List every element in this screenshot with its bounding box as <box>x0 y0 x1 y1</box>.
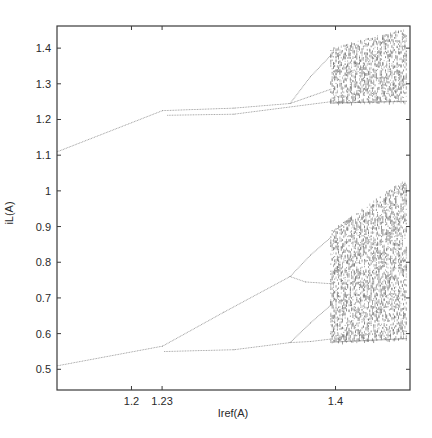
branch-lower-period4-c <box>290 305 332 343</box>
branch-lower-period2-low <box>164 342 290 352</box>
branch-lower-period4-a <box>290 237 332 277</box>
branch-lower-period4-d <box>290 339 332 343</box>
lower-chaos <box>330 182 406 345</box>
branch-upper-period4-b <box>290 89 332 104</box>
x-tick-label: 1.23 <box>151 395 172 407</box>
branch-lower-period1 <box>57 346 163 367</box>
branch-lower-period4-b <box>290 276 332 284</box>
y-tick-label: 1.1 <box>36 149 51 161</box>
branch-lower-period2-high <box>162 276 290 346</box>
y-tick-label: 0.7 <box>36 292 51 304</box>
branch-upper-period1 <box>57 110 163 152</box>
upper-chaos <box>330 29 406 105</box>
branch-upper-period2-high <box>162 103 290 111</box>
branch-upper-period2-low <box>167 101 331 115</box>
y-tick-label: 0.6 <box>36 328 51 340</box>
y-tick-label: 0.8 <box>36 256 51 268</box>
y-tick-label: 0.9 <box>36 221 51 233</box>
y-axis-label: iL(A) <box>3 201 15 224</box>
bifurcation-chart: 1.21.231.4 0.50.60.70.80.911.11.21.31.4 … <box>0 0 432 438</box>
y-tick-label: 1 <box>45 185 51 197</box>
y-tick-label: 1.2 <box>36 113 51 125</box>
y-tick-label: 1.4 <box>36 42 51 54</box>
y-tick-label: 1.3 <box>36 78 51 90</box>
x-tick-label: 1.4 <box>328 395 343 407</box>
plot-data <box>57 29 407 366</box>
x-tick-label: 1.2 <box>124 395 139 407</box>
y-tick-label: 0.5 <box>36 363 51 375</box>
x-axis-label: Iref(A) <box>218 407 249 419</box>
